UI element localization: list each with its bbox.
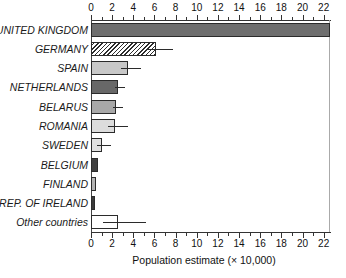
minor-tick bbox=[144, 233, 145, 236]
minor-tick bbox=[313, 233, 314, 236]
category-label: ROMANIA bbox=[39, 120, 88, 132]
x-tick-label: 20 bbox=[297, 238, 308, 249]
error-bar bbox=[97, 145, 111, 146]
x-tick-label: 16 bbox=[255, 238, 266, 249]
minor-tick bbox=[123, 233, 124, 236]
minor-tick bbox=[207, 233, 208, 236]
x-tick-label: 12 bbox=[212, 238, 223, 249]
bar-belgium bbox=[91, 158, 98, 172]
error-bar bbox=[146, 49, 174, 50]
category-label: GERMANY bbox=[35, 43, 88, 55]
x-tick-label: 10 bbox=[191, 238, 202, 249]
x-axis-title: Population estimate (× 10,000) bbox=[0, 254, 346, 266]
x-tick-label: 16 bbox=[255, 2, 266, 13]
x-tick-label: 4 bbox=[131, 2, 137, 13]
x-tick-label: 6 bbox=[152, 238, 158, 249]
category-label: BELGIUM bbox=[41, 159, 88, 171]
category-label: BELARUS bbox=[39, 101, 88, 113]
error-bar bbox=[121, 68, 141, 69]
bar-united-kingdom bbox=[91, 23, 330, 37]
x-tick-label: 0 bbox=[88, 2, 94, 13]
x-tick-label: 2 bbox=[109, 2, 115, 13]
category-label: Other countries bbox=[16, 216, 88, 228]
population-bar-chart: 0246810121416182022 0246810121416182022 … bbox=[0, 0, 346, 278]
minor-tick bbox=[292, 233, 293, 236]
minor-tick bbox=[165, 233, 166, 236]
error-bar bbox=[115, 87, 125, 88]
x-tick-label: 8 bbox=[173, 238, 179, 249]
x-tick-label: 14 bbox=[233, 238, 244, 249]
bottom-axis-line bbox=[91, 232, 331, 233]
minor-tick bbox=[228, 233, 229, 236]
x-tick-label: 18 bbox=[276, 2, 287, 13]
minor-tick bbox=[102, 233, 103, 236]
x-tick-label: 8 bbox=[173, 2, 179, 13]
x-tick-label: 2 bbox=[109, 238, 115, 249]
category-label: UNITED KINGDOM bbox=[0, 24, 88, 36]
minor-tick bbox=[250, 233, 251, 236]
x-tick-label: 18 bbox=[276, 238, 287, 249]
x-tick-label: 14 bbox=[233, 2, 244, 13]
bar-finland bbox=[91, 177, 96, 191]
error-bar bbox=[103, 222, 146, 223]
x-tick-label: 0 bbox=[88, 238, 94, 249]
x-tick-label: 12 bbox=[212, 2, 223, 13]
category-label: FINLAND bbox=[43, 178, 88, 190]
x-tick-label: 22 bbox=[318, 2, 329, 13]
minor-tick bbox=[271, 233, 272, 236]
category-label: REP. OF IRELAND bbox=[0, 197, 88, 209]
error-bar bbox=[113, 107, 123, 108]
category-label: SPAIN bbox=[57, 62, 88, 74]
category-label: SWEDEN bbox=[42, 139, 88, 151]
x-tick-label: 6 bbox=[152, 2, 158, 13]
x-tick-label: 20 bbox=[297, 2, 308, 13]
x-tick-label: 4 bbox=[131, 238, 137, 249]
x-tick-label: 22 bbox=[318, 238, 329, 249]
bar-rep-of-ireland bbox=[91, 196, 95, 210]
x-tick-label: 10 bbox=[191, 2, 202, 13]
error-bar bbox=[108, 126, 128, 127]
category-label: NETHERLANDS bbox=[10, 81, 88, 93]
minor-tick bbox=[186, 233, 187, 236]
